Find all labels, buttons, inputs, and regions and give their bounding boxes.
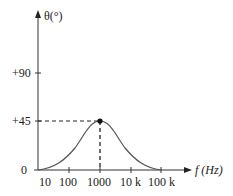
y-tick-label-90: +90 <box>12 66 31 80</box>
x-tick-label-10: 10 <box>39 175 51 189</box>
x-axis-label: f (Hz) <box>195 163 223 177</box>
y-axis-label: θ(°) <box>44 9 63 23</box>
x-tick-label-100: 100 <box>59 175 77 189</box>
phase-chart: θ(°) +90 +45 0 10 100 1000 10 k 100 k f … <box>0 0 233 196</box>
x-tick-label-100k: 100 k <box>148 175 175 189</box>
x-tick-label-1000: 1000 <box>87 175 111 189</box>
y-tick-label-0: 0 <box>21 163 27 177</box>
x-tick-label-10k: 10 k <box>120 175 141 189</box>
x-axis-arrow-icon <box>184 167 192 173</box>
y-axis-arrow-icon <box>35 10 41 18</box>
peak-point <box>97 118 102 123</box>
y-tick-label-45: +45 <box>12 114 31 128</box>
